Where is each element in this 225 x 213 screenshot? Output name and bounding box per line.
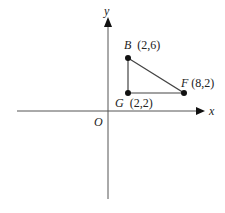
point-g-coords: (2,2): [130, 96, 153, 110]
triangle-bfg: [128, 58, 184, 93]
point-g-name: G: [115, 96, 124, 110]
point-f-label: F (8,2): [180, 76, 214, 90]
point-b: [125, 55, 131, 61]
point-f-coords: (8,2): [191, 76, 214, 90]
point-g-label: G (2,2): [115, 96, 153, 110]
point-b-name: B: [124, 38, 132, 52]
point-f: [181, 90, 187, 96]
point-f-name: F: [180, 76, 189, 90]
point-b-label: B (2,6): [124, 38, 160, 52]
origin-label: O: [94, 115, 103, 129]
x-axis-arrow-icon: [196, 107, 205, 115]
x-axis-label: x: [208, 104, 215, 118]
point-b-coords: (2,6): [137, 38, 160, 52]
y-axis-label: y: [103, 4, 110, 18]
coordinate-plane-diagram: x y O B (2,6) F (8,2) G (2,2): [0, 0, 225, 213]
y-axis-arrow-icon: [104, 17, 112, 27]
y-axis: y: [103, 4, 112, 199]
